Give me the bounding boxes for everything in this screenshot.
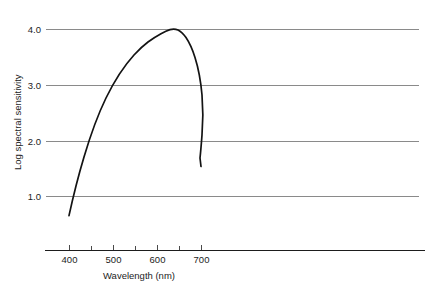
spectral-sensitivity-curve xyxy=(69,29,203,216)
x-tick-label-500: 500 xyxy=(106,254,122,265)
x-tick-label-600: 600 xyxy=(150,254,166,265)
chart-figure: 4.0 3.0 2.0 1.0 Log spectral sensitivity… xyxy=(0,0,435,292)
y-tick-label-4-0: 4.0 xyxy=(28,24,41,35)
spectral-sensitivity-chart: 4.0 3.0 2.0 1.0 Log spectral sensitivity… xyxy=(0,0,435,292)
y-axis-title: Log spectral sensitivity xyxy=(12,74,23,170)
gridlines-group xyxy=(46,30,419,197)
y-tick-label-1-0: 1.0 xyxy=(28,191,41,202)
y-tick-label-2-0: 2.0 xyxy=(28,136,41,147)
x-tick-label-700: 700 xyxy=(194,254,210,265)
x-axis-group: 400 500 600 700 Wavelength (nm) xyxy=(45,245,425,281)
x-tick-label-400: 400 xyxy=(62,254,78,265)
y-tick-label-3-0: 3.0 xyxy=(28,80,41,91)
y-axis-tick-labels: 4.0 3.0 2.0 1.0 xyxy=(28,24,41,202)
x-axis-title: Wavelength (nm) xyxy=(103,270,175,281)
